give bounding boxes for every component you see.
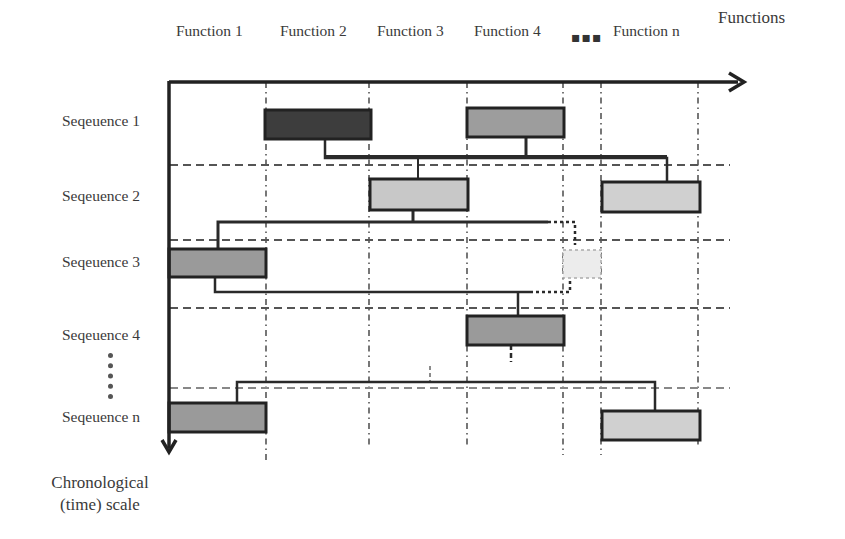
function-label-4: Function 4 bbox=[474, 22, 541, 40]
sequence-label-1: Seqeuence 1 bbox=[62, 112, 140, 130]
block-seq2-fn3 bbox=[370, 179, 468, 210]
sequence-label-n: Seqeuence n bbox=[62, 408, 140, 426]
function-label-2: Function 2 bbox=[280, 22, 347, 40]
function-label-3: Function 3 bbox=[377, 22, 444, 40]
block-seq3-faded bbox=[563, 250, 601, 278]
y-axis-title: Chronological (time) scale bbox=[30, 472, 170, 516]
functions-ellipsis: ▪▪▪ bbox=[571, 29, 602, 45]
function-label-1: Function 1 bbox=[176, 22, 243, 40]
sequence-label-2: Seqeuence 2 bbox=[62, 187, 140, 205]
x-axis-title: Functions bbox=[718, 8, 785, 28]
block-seqn-fn1 bbox=[169, 403, 266, 432]
sequences-ellipsis bbox=[108, 353, 118, 399]
x-axis bbox=[169, 73, 744, 91]
sequence-label-4: Seqeuence 4 bbox=[62, 326, 140, 344]
block-seq4-fn4 bbox=[467, 316, 564, 345]
block-seq1-fn4 bbox=[467, 108, 564, 137]
sequence-label-3: Seqeuence 3 bbox=[62, 253, 140, 271]
y-axis-title-line1: Chronological bbox=[30, 472, 170, 494]
block-seq2-fnn bbox=[602, 182, 700, 212]
y-axis-title-line2: (time) scale bbox=[30, 494, 170, 516]
block-seq3-fn1 bbox=[169, 249, 266, 277]
block-seq1-fn2 bbox=[265, 110, 371, 139]
function-label-n: Function n bbox=[613, 22, 680, 40]
block-seqn-fnn bbox=[602, 411, 700, 440]
